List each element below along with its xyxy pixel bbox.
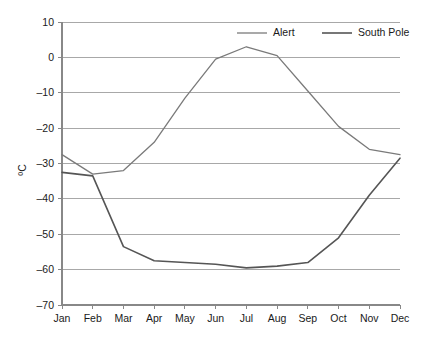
- ytick-label--70: –70: [36, 299, 54, 311]
- xtick-label-may: May: [175, 312, 196, 324]
- legend-label-south-pole: South Pole: [358, 26, 410, 38]
- temperature-line-chart: 100–10–20–30–40–50–60–70JanFebMarAprMayJ…: [0, 0, 422, 340]
- legend-label-alert: Alert: [273, 26, 295, 38]
- ytick-label--40: –40: [36, 192, 54, 204]
- ytick-label-10: 10: [42, 16, 54, 28]
- xtick-label-mar: Mar: [114, 312, 133, 324]
- chart-canvas: 100–10–20–30–40–50–60–70JanFebMarAprMayJ…: [0, 0, 422, 340]
- xtick-label-apr: Apr: [146, 312, 163, 324]
- xtick-label-nov: Nov: [360, 312, 379, 324]
- series-line-south-pole: [62, 158, 400, 268]
- ytick-label--10: –10: [36, 86, 54, 98]
- series-line-alert: [62, 47, 400, 174]
- ytick-label--20: –20: [36, 122, 54, 134]
- ytick-label--60: –60: [36, 263, 54, 275]
- xtick-label-jun: Jun: [207, 312, 224, 324]
- y-axis-title: ºC: [16, 164, 28, 176]
- xtick-label-jan: Jan: [54, 312, 71, 324]
- xtick-label-aug: Aug: [268, 312, 287, 324]
- ytick-label--30: –30: [36, 157, 54, 169]
- ytick-label-0: 0: [48, 51, 54, 63]
- xtick-label-oct: Oct: [330, 312, 346, 324]
- xtick-label-feb: Feb: [84, 312, 102, 324]
- xtick-label-jul: Jul: [240, 312, 253, 324]
- ytick-label--50: –50: [36, 228, 54, 240]
- xtick-label-sep: Sep: [298, 312, 317, 324]
- xtick-label-dec: Dec: [391, 312, 410, 324]
